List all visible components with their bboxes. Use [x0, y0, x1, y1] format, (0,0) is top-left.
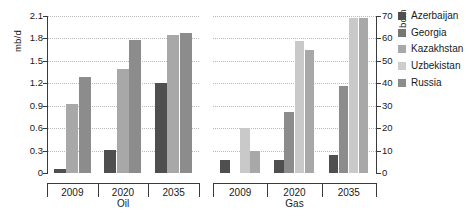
- bar-azerbaijan-2035: [329, 155, 339, 173]
- legend-label: Kazakhstan: [411, 44, 463, 54]
- y-tick-label: 0.3: [3, 146, 43, 156]
- bar-kazakhstan-2035: [339, 86, 349, 173]
- y-tick-mark: [377, 38, 381, 39]
- legend-swatch-icon: [398, 79, 406, 87]
- gas-group-label: Gas: [213, 198, 376, 209]
- y-tick-mark: [377, 61, 381, 62]
- x-tick-label-2009: 2009: [213, 187, 267, 198]
- bar-kazakhstan-2020: [117, 69, 129, 173]
- y-tick-mark: [377, 151, 381, 152]
- legend-label: Georgia: [411, 28, 447, 38]
- bar-azerbaijan-2020: [274, 160, 284, 173]
- x-tick-label-2035: 2035: [148, 187, 199, 198]
- bar-uzbekistan-2009: [240, 128, 250, 173]
- legend-item-kazakhstan[interactable]: Kazakhstan: [398, 41, 469, 58]
- y-tick-label: 2.1: [3, 11, 43, 21]
- bar-russia-2009: [250, 151, 260, 173]
- bar-azerbaijan-2009: [54, 169, 66, 173]
- legend-item-russia[interactable]: Russia: [398, 74, 469, 91]
- legend: AzerbaijanGeorgiaKazakhstanUzbekistanRus…: [398, 8, 469, 91]
- y-tick-mark: [377, 83, 381, 84]
- legend-label: Azerbaijan: [411, 11, 458, 21]
- y-tick-label: 10: [382, 146, 406, 156]
- y-tick-mark: [43, 151, 47, 152]
- bar-uzbekistan-2020: [295, 41, 305, 173]
- y-tick-label: 1.2: [3, 78, 43, 88]
- legend-swatch-icon: [398, 12, 406, 20]
- bar-russia-2020: [129, 40, 141, 173]
- legend-swatch-icon: [398, 62, 406, 70]
- legend-swatch-icon: [398, 29, 406, 37]
- y-tick-mark: [43, 128, 47, 129]
- gas-chart-panel: 010203040506070 200920202035 bcm Gas: [205, 0, 395, 216]
- oil-chart-panel: mb/d 00.30.60.91.21.51.82.1 200920202035…: [0, 0, 205, 216]
- y-tick-mark: [377, 128, 381, 129]
- category-axis-line: [47, 183, 199, 184]
- bar-uzbekistan-2035: [349, 18, 359, 173]
- y-tick-mark: [43, 16, 47, 17]
- x-tick-label-2009: 2009: [47, 187, 98, 198]
- y-tick-label: 0.9: [3, 101, 43, 111]
- y-tick-label: 0.6: [3, 123, 43, 133]
- y-tick-mark: [43, 173, 47, 174]
- legend-label: Uzbekistan: [411, 61, 460, 71]
- bar-kazakhstan-2009: [66, 104, 78, 173]
- y-tick-mark: [43, 61, 47, 62]
- legend-swatch-icon: [398, 45, 406, 53]
- y-tick-label: 30: [382, 101, 406, 111]
- category-separator: [376, 183, 377, 197]
- bar-kazakhstan-2035: [167, 35, 179, 173]
- y-tick-mark: [377, 173, 381, 174]
- chart-figure: mb/d 00.30.60.91.21.51.82.1 200920202035…: [0, 0, 469, 216]
- y-tick-mark: [43, 106, 47, 107]
- y-tick-label: 1.5: [3, 56, 43, 66]
- y-tick-label: 1.8: [3, 33, 43, 43]
- bar-russia-2009: [79, 77, 91, 173]
- oil-bar-group: [47, 16, 199, 173]
- gas-bar-group: [213, 16, 376, 173]
- bar-azerbaijan-2020: [104, 150, 116, 173]
- y-tick-mark: [377, 16, 381, 17]
- oil-y-axis-line: [47, 16, 48, 174]
- bar-azerbaijan-2009: [220, 160, 230, 173]
- y-tick-mark: [43, 83, 47, 84]
- bar-kazakhstan-2020: [284, 112, 294, 173]
- category-axis-line: [213, 183, 376, 184]
- legend-label: Russia: [411, 78, 442, 88]
- y-tick-mark: [377, 106, 381, 107]
- gas-plot-area: [213, 16, 376, 173]
- oil-plot-area: [47, 16, 199, 173]
- y-tick-label: 0: [382, 168, 406, 178]
- legend-item-uzbekistan[interactable]: Uzbekistan: [398, 58, 469, 75]
- x-tick-label-2035: 2035: [322, 187, 376, 198]
- y-tick-label: 20: [382, 123, 406, 133]
- legend-item-azerbaijan[interactable]: Azerbaijan: [398, 8, 469, 25]
- x-tick-label-2020: 2020: [98, 187, 149, 198]
- oil-group-label: Oil: [47, 198, 199, 209]
- y-tick-label: 0: [3, 168, 43, 178]
- y-tick-mark: [43, 38, 47, 39]
- category-separator: [199, 183, 200, 197]
- x-tick-label-2020: 2020: [267, 187, 321, 198]
- bar-russia-2035: [180, 33, 192, 173]
- bar-russia-2020: [305, 50, 315, 173]
- legend-item-georgia[interactable]: Georgia: [398, 25, 469, 42]
- bar-azerbaijan-2035: [155, 83, 167, 173]
- bar-russia-2035: [359, 18, 369, 173]
